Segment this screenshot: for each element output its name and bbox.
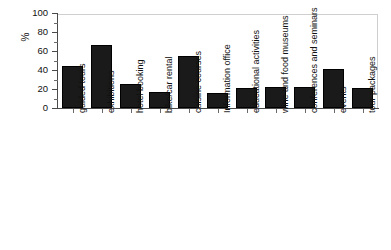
y-tick-label: 100 bbox=[18, 8, 48, 17]
x-tick-label: exhibitions bbox=[106, 70, 116, 113]
y-tick-major bbox=[52, 13, 58, 14]
x-tick-label: tour packages bbox=[367, 56, 377, 113]
y-tick-major bbox=[52, 70, 58, 71]
y-tick-minor bbox=[54, 61, 58, 62]
y-tick-major bbox=[52, 32, 58, 33]
y-tick-label: 80 bbox=[18, 27, 48, 36]
y-tick-label: 60 bbox=[18, 46, 48, 55]
x-tick bbox=[189, 109, 190, 113]
y-tick-minor bbox=[54, 23, 58, 24]
y-tick-major bbox=[52, 108, 58, 109]
x-tick-label: guided tours bbox=[77, 63, 87, 113]
bar-chart-figure: % 100806040200 guided toursexhibitionsho… bbox=[0, 0, 391, 250]
y-tick-label: 40 bbox=[18, 65, 48, 74]
y-tick-minor bbox=[54, 80, 58, 81]
x-tick-label: hotel booking bbox=[135, 59, 145, 113]
x-tick-label: Information office bbox=[222, 44, 232, 113]
y-tick-minor bbox=[54, 42, 58, 43]
x-tick bbox=[363, 109, 364, 113]
y-tick-label: 0 bbox=[18, 103, 48, 112]
x-tick bbox=[218, 109, 219, 113]
x-tick-label: educational activities bbox=[251, 30, 261, 113]
x-tick bbox=[102, 109, 103, 113]
x-tick bbox=[305, 109, 306, 113]
x-tick-label: events bbox=[338, 86, 348, 113]
x-tick bbox=[73, 109, 74, 113]
x-tick-label: bike/car rental bbox=[164, 56, 174, 113]
y-tick-major bbox=[52, 51, 58, 52]
x-tick-label: cuisine courses bbox=[193, 51, 203, 113]
x-tick bbox=[247, 109, 248, 113]
y-tick-label: 20 bbox=[18, 84, 48, 93]
x-tick bbox=[276, 109, 277, 113]
y-tick-major bbox=[52, 89, 58, 90]
x-tick bbox=[160, 109, 161, 113]
y-tick-minor bbox=[54, 99, 58, 100]
x-tick-label: conferences and seminars bbox=[309, 7, 319, 113]
x-tick bbox=[334, 109, 335, 113]
x-tick-label: wine and food museums bbox=[280, 15, 290, 113]
x-tick bbox=[131, 109, 132, 113]
